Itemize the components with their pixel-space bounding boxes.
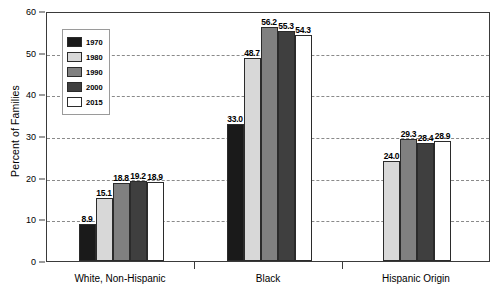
plot-inner: 8.915.118.819.218.933.048.756.255.354.32… [47, 13, 489, 261]
y-tick-mark [39, 262, 45, 263]
legend-item: 1980 [67, 50, 105, 64]
y-tick-mark [39, 137, 45, 138]
y-tick-label: 60 [14, 7, 36, 17]
legend-swatch-icon [67, 82, 82, 92]
bar-value-label: 28.9 [435, 131, 451, 141]
bar-value-label: 55.3 [278, 21, 294, 31]
y-tick-mark [39, 178, 45, 179]
legend-swatch-icon [67, 67, 82, 77]
x-category-label: White, Non-Hispanic [74, 273, 165, 284]
bar-value-label: 48.7 [244, 48, 260, 58]
bar-value-label: 18.8 [113, 173, 129, 183]
legend-item-label: 1980 [86, 53, 103, 62]
bar [79, 224, 96, 261]
y-tick-mark [39, 12, 45, 13]
y-tick-mark [39, 220, 45, 221]
bar [383, 161, 400, 261]
bar-chart-figure: Percent of Families 0102030405060 8.915.… [0, 0, 498, 296]
bar [227, 124, 244, 262]
y-tick-label: 50 [14, 49, 36, 59]
legend-item: 2015 [67, 95, 105, 109]
bar [400, 139, 417, 261]
legend-swatch-icon [67, 97, 82, 107]
bar-value-label: 24.0 [384, 151, 400, 161]
bar [244, 58, 261, 261]
x-axis: White, Non-HispanicBlackHispanic Origin [46, 262, 490, 296]
y-tick-label: 20 [14, 174, 36, 184]
legend-swatch-icon [67, 52, 82, 62]
legend-item-label: 1970 [86, 38, 103, 47]
x-tick-mark [194, 262, 195, 269]
legend-item: 1990 [67, 65, 105, 79]
bar [261, 27, 278, 261]
bar-value-label: 18.9 [147, 172, 163, 182]
bar [130, 181, 147, 261]
bar [295, 35, 312, 261]
bar [434, 141, 451, 261]
chart-legend: 19701980199020002015 [62, 29, 110, 115]
y-tick-mark [39, 95, 45, 96]
bar [417, 143, 434, 261]
legend-item: 1970 [67, 35, 105, 49]
legend-item-label: 2015 [86, 98, 103, 107]
bar [113, 183, 130, 261]
bar-value-label: 19.2 [130, 171, 146, 181]
bar [278, 31, 295, 261]
y-tick-label: 30 [14, 132, 36, 142]
legend-swatch-icon [67, 37, 82, 47]
x-tick-mark [342, 262, 343, 269]
bar [96, 198, 113, 261]
bar-value-label: 56.2 [261, 17, 277, 27]
bar-value-label: 33.0 [227, 114, 243, 124]
bar-value-label: 15.1 [96, 188, 112, 198]
x-category-label: Hispanic Origin [382, 273, 450, 284]
y-tick-label: 10 [14, 215, 36, 225]
legend-item: 2000 [67, 80, 105, 94]
y-tick-label: 0 [14, 257, 36, 267]
x-category-label: Black [256, 273, 280, 284]
plot-area: 8.915.118.819.218.933.048.756.255.354.32… [46, 12, 490, 262]
bar-value-label: 29.3 [401, 129, 417, 139]
bar-value-label: 8.9 [81, 214, 92, 224]
legend-item-label: 1990 [86, 68, 103, 77]
legend-item-label: 2000 [86, 83, 103, 92]
bar-value-label: 28.4 [418, 133, 434, 143]
y-tick-mark [39, 53, 45, 54]
bar-value-label: 54.3 [295, 25, 311, 35]
y-tick-label: 40 [14, 90, 36, 100]
bar [147, 182, 164, 261]
